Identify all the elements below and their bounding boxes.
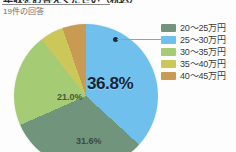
slice-label-25-30: 36.8%	[87, 74, 133, 94]
legend-label: 35～40万円	[180, 59, 226, 69]
legend-item-2[interactable]: 30～35万円	[161, 46, 236, 58]
title-underline	[2, 4, 110, 5]
pie-chart: 36.8% 21.0% 31.6%	[14, 24, 158, 152]
legend-swatch-icon	[161, 24, 176, 32]
legend-label: 40～45万円	[180, 71, 226, 81]
legend-label: 25～30万円	[180, 35, 226, 45]
callout-leader-line	[117, 39, 167, 40]
legend-label: 30～35万円	[180, 47, 226, 57]
legend-swatch-icon	[161, 60, 176, 68]
legend-swatch-icon	[161, 36, 176, 44]
page-title: 年収をお答えください（税込）	[3, 0, 139, 3]
legend-item-3[interactable]: 35～40万円	[161, 58, 236, 70]
legend-swatch-icon	[161, 72, 176, 80]
legend-item-4[interactable]: 40～45万円	[161, 70, 236, 82]
chart-container: 年収をお答えください（税込） 19件の回答 36.8% 21.0% 31.6% …	[0, 0, 236, 152]
legend-item-0[interactable]: 20～25万円	[161, 22, 236, 34]
chart-header: 年収をお答えください（税込） 19件の回答	[0, 0, 236, 20]
legend-label: 20～25万円	[180, 23, 226, 33]
slice-label-30-35: 21.0%	[57, 92, 83, 102]
legend-swatch-icon	[161, 48, 176, 56]
slice-label-20-25: 31.6%	[76, 136, 102, 146]
pie-graphic[interactable]	[14, 24, 158, 152]
legend: 20～25万円25～30万円30～35万円35～40万円40～45万円	[161, 22, 236, 82]
legend-item-1[interactable]: 25～30万円	[161, 34, 236, 46]
response-count: 19件の回答	[3, 7, 44, 17]
